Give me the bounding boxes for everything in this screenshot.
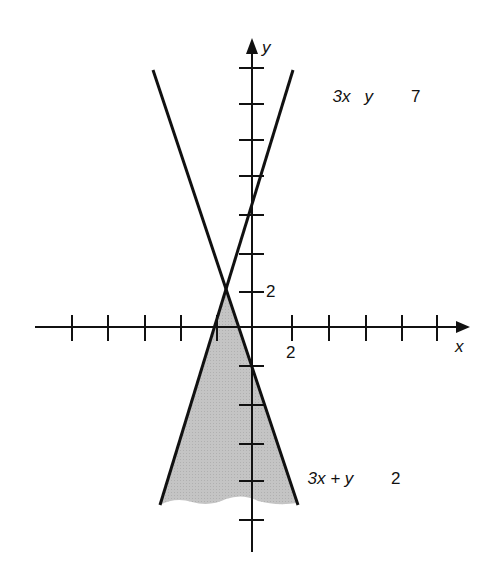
y-axis-arrow-icon — [246, 38, 258, 54]
equation-label-3x-plus-y-2: 3x + y 2 — [298, 449, 401, 489]
equation-part: 3x — [332, 87, 350, 106]
equation-part: 2 — [391, 469, 400, 488]
equation-label-3x-y-7: 3x y 7 — [323, 67, 420, 107]
y-axis-label: y — [262, 38, 271, 58]
y-tick-label-2: 2 — [266, 282, 275, 302]
equation-part: 3x + y — [307, 469, 353, 488]
x-tick-label-2: 2 — [286, 343, 295, 363]
equation-part: 7 — [411, 87, 420, 106]
x-axis-arrow-icon — [456, 321, 470, 333]
equation-part: y — [365, 87, 374, 106]
x-axis-label: x — [455, 337, 464, 357]
